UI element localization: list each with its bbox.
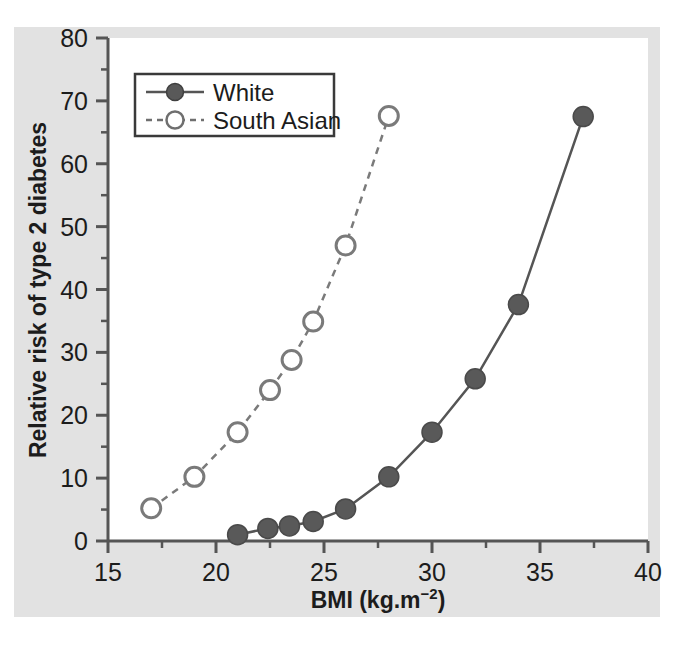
x-tick-label-30: 30	[418, 558, 446, 586]
x-axis-title-tail: )	[438, 587, 446, 613]
x-tick-label-25: 25	[310, 558, 338, 586]
data-point-9[interactable]	[573, 107, 593, 127]
y-axis-ticks	[96, 38, 108, 541]
x-tick-label-40: 40	[634, 558, 662, 586]
data-point-3[interactable]	[261, 381, 280, 400]
data-point-2[interactable]	[279, 516, 299, 536]
y-tick-label-80: 80	[60, 24, 88, 52]
data-point-6[interactable]	[422, 422, 442, 442]
data-point-5[interactable]	[304, 312, 323, 331]
y-tick-label-20: 20	[60, 401, 88, 429]
y-tick-label-50: 50	[60, 213, 88, 241]
x-tick-label-15: 15	[94, 558, 122, 586]
y-axis-tick-labels: 01020304050607080	[60, 24, 88, 555]
data-point-1[interactable]	[185, 467, 204, 486]
data-point-4[interactable]	[336, 499, 356, 519]
data-point-0[interactable]	[228, 525, 248, 545]
y-tick-label-40: 40	[60, 276, 88, 304]
legend: White South Asian	[135, 74, 341, 136]
y-tick-label-30: 30	[60, 338, 88, 366]
y-tick-label-60: 60	[60, 150, 88, 178]
data-point-1[interactable]	[258, 518, 278, 538]
data-point-3[interactable]	[303, 512, 323, 532]
legend-marker-open-circle	[167, 112, 184, 129]
data-point-7[interactable]	[379, 106, 398, 125]
x-tick-label-35: 35	[526, 558, 554, 586]
svg-text:BMI (kg.m−2): BMI (kg.m−2)	[311, 585, 446, 613]
legend-label-white: White	[213, 79, 274, 106]
y-tick-label-0: 0	[74, 527, 88, 555]
data-point-4[interactable]	[282, 350, 301, 369]
y-tick-label-70: 70	[60, 87, 88, 115]
x-tick-label-20: 20	[202, 558, 230, 586]
x-axis-title-exponent: −2	[421, 585, 438, 602]
x-axis-tick-labels: 152025303540	[94, 558, 662, 586]
data-point-6[interactable]	[336, 236, 355, 255]
legend-marker-filled-circle	[167, 84, 184, 101]
chart-page: 01020304050607080 152025303540 Relative …	[0, 0, 687, 645]
x-axis-title: BMI (kg.m−2)	[311, 585, 446, 613]
x-axis-title-main: BMI (kg.m	[311, 587, 421, 613]
legend-label-south-asian: South Asian	[213, 107, 341, 134]
data-point-2[interactable]	[228, 423, 247, 442]
y-axis-title: Relative risk of type 2 diabetes	[25, 122, 51, 458]
data-point-0[interactable]	[142, 499, 161, 518]
relative-risk-bmi-line-chart: 01020304050607080 152025303540 Relative …	[0, 0, 687, 645]
data-point-7[interactable]	[465, 369, 485, 389]
data-point-8[interactable]	[508, 295, 528, 315]
y-tick-label-10: 10	[60, 464, 88, 492]
data-point-5[interactable]	[379, 467, 399, 487]
